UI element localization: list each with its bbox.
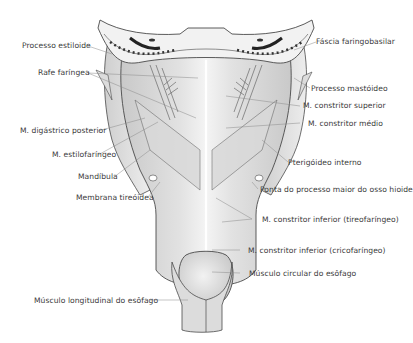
label-mandibula: Mandíbula xyxy=(78,172,118,181)
label-digastrico-posterior: M. digástrico posterior xyxy=(20,126,106,135)
label-constritor-inferior-crico: M. constritor inferior (cricofaríngeo) xyxy=(248,246,386,255)
label-processo-estiloide: Processo estiloide xyxy=(22,41,91,50)
label-fascia-faringobasilar: Fáscia faringobasilar xyxy=(316,37,395,46)
label-constritor-superior: M. constritor superior xyxy=(303,101,386,110)
label-rafe-faringea: Rafe faríngea xyxy=(38,68,90,77)
label-pterigoideo-interno: Pterigóideo interno xyxy=(288,158,362,167)
skull-base xyxy=(98,20,314,63)
label-estilofaringeo: M. estilofaríngeo xyxy=(52,150,116,159)
label-musculo-longitudinal: Músculo longitudinal do esôfago xyxy=(34,296,158,305)
label-constritor-inferior-tireo: M. constritor inferior (tireofaríngeo) xyxy=(262,215,399,224)
label-ponta-hioide: Ponta do processo maior do osso hioide xyxy=(260,185,413,194)
label-processo-mastoideo: Processo mastóideo xyxy=(311,84,388,93)
label-constritor-medio: M. constritor médio xyxy=(308,119,383,128)
label-membrana-tireoidea: Membrana tireóidea xyxy=(76,193,154,202)
label-musculo-circular: Músculo circular do esôfago xyxy=(249,269,356,278)
